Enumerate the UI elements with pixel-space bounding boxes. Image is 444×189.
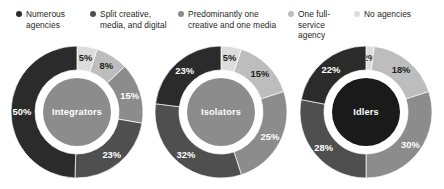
slice-percent-label: 18% [392, 64, 411, 75]
slice-percent-label: 8% [99, 60, 113, 71]
donut-center-label: Idlers [353, 107, 379, 117]
chart-legend: Numerous agencies Split creative, media,… [0, 0, 444, 40]
slice-percent-label: 23% [102, 149, 121, 160]
slice-percent-label: 50% [13, 106, 32, 117]
slice-percent-label: 22% [322, 64, 341, 75]
legend-dot-icon [90, 11, 96, 17]
donut-center-label: Integrators [52, 107, 102, 117]
legend-item-numerous-agencies: Numerous agencies [16, 9, 86, 30]
slice-percent-label: 25% [261, 131, 280, 142]
slice-percent-label: 32% [177, 149, 196, 160]
donut-svg-integrators: 5%8%15%23%50%Integrators [6, 38, 154, 189]
slice-percent-label: 15% [251, 68, 270, 79]
donut-chart-isolators: 5%15%25%32%23%Isolators [150, 38, 298, 189]
legend-item-label: No agencies [364, 9, 411, 20]
legend-dot-icon [288, 11, 294, 17]
legend-item-label: Split creative, media, and digital [100, 9, 167, 30]
donut-chart-group: 5%8%15%23%50%Integrators 5%15%25%32%23%I… [0, 38, 444, 189]
slice-percent-label: 30% [401, 139, 420, 150]
legend-item-label: Numerous agencies [26, 9, 65, 30]
legend-item-split-creative-media-digital: Split creative, media, and digital [90, 9, 172, 30]
legend-item-label: Predominantly one creative and one media [188, 9, 276, 30]
legend-item-no-agencies: No agencies [354, 9, 426, 20]
legend-dot-icon [16, 11, 22, 17]
donut-svg-idlers: 2%18%30%28%22%Idlers [295, 38, 443, 189]
slice-percent-label: 28% [314, 142, 333, 153]
donut-chart-idlers: 2%18%30%28%22%Idlers [295, 38, 443, 189]
legend-dot-icon [178, 11, 184, 17]
donut-chart-integrators: 5%8%15%23%50%Integrators [6, 38, 154, 189]
legend-item-predominantly-one-creative-one-media: Predominantly one creative and one media [178, 9, 284, 30]
slice-percent-label: 15% [120, 90, 139, 101]
legend-dot-icon [354, 11, 360, 17]
legend-item-one-full-service-agency: One full-service agency [288, 9, 350, 41]
legend-item-label: One full-service agency [298, 9, 350, 41]
slice-percent-label: 23% [175, 65, 194, 76]
slice-percent-label: 5% [79, 52, 93, 63]
donut-center-label: Isolators [201, 107, 241, 117]
slice-percent-label: 5% [223, 52, 237, 63]
donut-svg-isolators: 5%15%25%32%23%Isolators [150, 38, 298, 189]
